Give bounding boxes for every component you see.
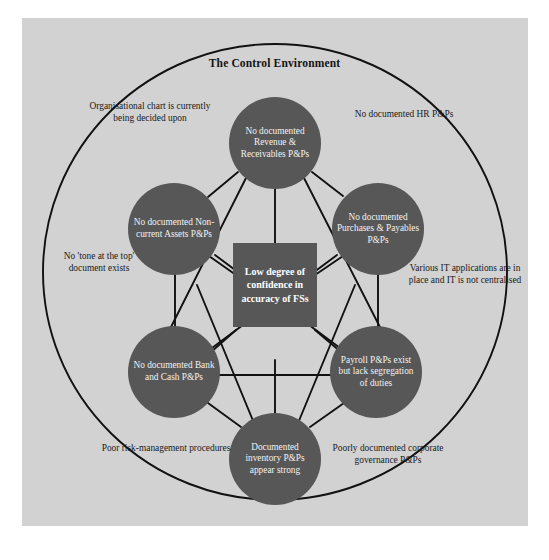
- diagram-page: The Control Environment No documented Re…: [0, 0, 549, 560]
- annotation-it-label: Various IT applications are in place and…: [409, 263, 522, 285]
- annotation-hr: No documented HR P&Ps: [345, 108, 463, 120]
- annotation-tone-label: No 'tone at the top' document exists: [64, 251, 135, 273]
- annotation-risk: Poor risk-management procedures: [98, 442, 234, 454]
- annotation-risk-label: Poor risk-management procedures: [102, 443, 231, 453]
- page-title: The Control Environment: [0, 57, 549, 69]
- node-revenue-label: No documented Revenue & Receivables P&Ps: [233, 126, 317, 161]
- node-revenue[interactable]: No documented Revenue & Receivables P&Ps: [229, 97, 321, 189]
- edge-revenue-noncurrent: [208, 172, 238, 197]
- node-noncurrent-label: No documented Non-current Assets P&Ps: [132, 217, 216, 240]
- annotation-hr-label: No documented HR P&Ps: [355, 109, 454, 119]
- edge-payroll-inventory: [310, 403, 344, 427]
- node-payroll-label: Payroll P&Ps exist but lack segregation …: [334, 355, 418, 390]
- center-outcome-box[interactable]: Low degree of confidence in accuracy of …: [233, 243, 317, 327]
- edge-purchases-center: [315, 256, 343, 275]
- edge-revenue-purchases: [312, 172, 343, 196]
- edge-noncurrent-center: [209, 256, 236, 275]
- annotation-governance: Poorly documented corporate governance P…: [314, 442, 462, 466]
- node-inventory-label: Documented inventory P&Ps appear strong: [233, 442, 317, 477]
- annotation-governance-label: Poorly documented corporate governance P…: [333, 443, 444, 465]
- node-bank-label: No documented Bank and Cash P&Ps: [132, 360, 216, 383]
- node-purchases-label: No documented Purchases & Payables P&Ps: [336, 212, 420, 247]
- node-inventory[interactable]: Documented inventory P&Ps appear strong: [229, 413, 321, 505]
- annotation-org-chart: Organisational chart is currently being …: [86, 100, 214, 124]
- annotation-it: Various IT applications are in place and…: [406, 262, 524, 286]
- node-bank[interactable]: No documented Bank and Cash P&Ps: [128, 326, 220, 418]
- annotation-org-chart-label: Organisational chart is currently being …: [90, 101, 211, 123]
- annotation-tone: No 'tone at the top' document exists: [56, 250, 142, 274]
- node-payroll[interactable]: Payroll P&Ps exist but lack segregation …: [330, 326, 422, 418]
- center-outcome-label: Low degree of confidence in accuracy of …: [237, 265, 313, 305]
- edge-bank-inventory: [208, 403, 241, 427]
